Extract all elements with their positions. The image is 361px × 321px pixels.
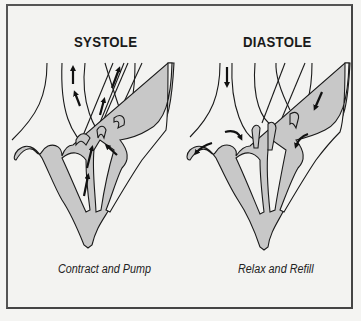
systole-caption: Contract and Pump (58, 262, 151, 276)
diastole-heart (187, 63, 350, 250)
diastole-caption: Relax and Refill (238, 262, 314, 276)
systole-heart (12, 63, 174, 248)
